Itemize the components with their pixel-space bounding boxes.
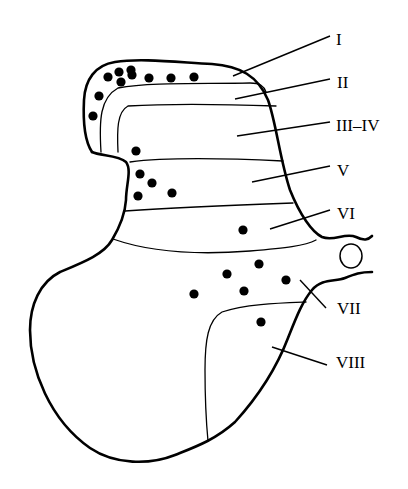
labeled-cell-dot <box>167 188 176 197</box>
labeled-cell-dot <box>147 178 156 187</box>
boundary-lamina-VIII <box>205 302 306 441</box>
labeled-cell-dot <box>238 225 247 234</box>
labeled-cell-dot <box>189 289 198 298</box>
central-canal <box>340 244 362 268</box>
labeled-cell-dot <box>131 146 140 155</box>
boundary-lamina-II-III <box>118 105 276 153</box>
labeled-cell-dot <box>133 191 142 200</box>
label-lamina-VIII: VIII <box>336 354 365 371</box>
label-lamina-I: I <box>336 31 342 48</box>
labeled-cell-dot <box>239 286 248 295</box>
leader-line-I <box>233 36 330 76</box>
labeled-cell-dot <box>144 73 153 82</box>
label-lamina-II: II <box>337 74 348 91</box>
lateral-outline <box>30 152 372 462</box>
boundary-lamina-VI-VII <box>113 239 316 253</box>
labeled-cell-dot <box>114 67 123 76</box>
label-lamina-VII: VII <box>337 300 361 317</box>
labeled-cell-dot <box>88 111 97 120</box>
labeled-cell-dot <box>166 73 175 82</box>
labeled-cell-dot <box>256 317 265 326</box>
labeled-cell-dot <box>189 72 198 81</box>
labeled-cell-dot <box>103 72 112 81</box>
labeled-cell-dot <box>127 70 136 79</box>
label-lamina-V: V <box>337 162 349 179</box>
boundary-lamina-I-II <box>100 83 266 152</box>
boundary-lamina-IV-V <box>130 159 283 162</box>
leader-line-II <box>235 79 330 99</box>
labeled-cell-dot <box>116 77 125 86</box>
label-leader-lines <box>233 36 330 365</box>
leader-line-III-IV <box>237 122 330 136</box>
boundary-lamina-V-VI <box>125 203 293 211</box>
label-lamina-VI: VI <box>337 205 355 222</box>
labeled-cell-dot <box>94 91 103 100</box>
labeled-cell-dot <box>135 169 144 178</box>
leader-line-V <box>252 166 330 182</box>
labeled-cell-dot <box>222 269 231 278</box>
label-lamina-III-IV: III–IV <box>336 117 379 134</box>
labeled-cell-dot <box>254 259 263 268</box>
labeled-cell-dot <box>281 275 290 284</box>
